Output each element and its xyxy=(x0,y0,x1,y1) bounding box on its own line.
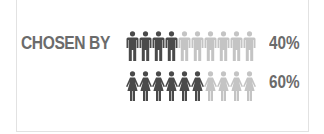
chosen-by-label: CHOSEN BY xyxy=(21,32,110,54)
woman-icon xyxy=(152,71,165,102)
woman-icon xyxy=(217,71,230,102)
man-icon xyxy=(230,31,243,62)
man-icon xyxy=(152,31,165,62)
man-icon xyxy=(243,31,256,62)
woman-icon xyxy=(165,71,178,102)
man-icon xyxy=(217,31,230,62)
woman-icon xyxy=(191,71,204,102)
man-icon xyxy=(165,31,178,62)
woman-icon xyxy=(230,71,243,102)
man-icon xyxy=(204,31,217,62)
woman-icon xyxy=(139,71,152,102)
infographic-card xyxy=(16,0,309,132)
men-icon-row xyxy=(126,31,256,62)
man-icon xyxy=(139,31,152,62)
woman-icon xyxy=(178,71,191,102)
woman-icon xyxy=(204,71,217,102)
man-icon xyxy=(126,31,139,62)
man-icon xyxy=(191,31,204,62)
women-percent: 60% xyxy=(269,72,300,93)
women-icon-row xyxy=(126,71,256,102)
woman-icon xyxy=(126,71,139,102)
men-percent: 40% xyxy=(269,33,300,54)
woman-icon xyxy=(243,71,256,102)
man-icon xyxy=(178,31,191,62)
